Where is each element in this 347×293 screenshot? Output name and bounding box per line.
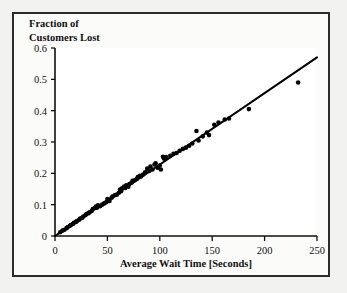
y-tick-label: 0.2 [34,168,47,179]
scatter-plot: Fraction of Customers Lost 00.10.20.30.4… [14,14,328,275]
x-tick-label: 100 [152,245,168,256]
x-tick-label: 150 [204,245,220,256]
data-point [222,117,227,122]
x-tick-label: 250 [309,245,325,256]
data-point [190,141,195,146]
y-tick-label: 0.5 [34,74,47,85]
y-tick-label: 0.1 [34,200,47,211]
data-point [200,134,205,139]
data-point [159,167,164,172]
x-tick-label: 50 [102,245,113,256]
data-point [227,116,232,121]
data-point [296,80,301,85]
data-point [153,161,158,166]
chart-figure: Fraction of Customers Lost 00.10.20.30.4… [0,0,347,293]
y-axis-title-line2: Customers Lost [29,32,100,43]
data-point [158,163,163,168]
data-point [212,122,217,127]
data-point [194,129,199,134]
data-point [196,138,201,143]
x-tick-label: 200 [257,245,273,256]
x-tick-label: 0 [52,245,57,256]
y-tick-label: 0.6 [34,43,47,54]
data-point [164,155,169,160]
y-axis-title-line1: Fraction of [29,18,79,29]
data-point [207,133,212,138]
x-axis-title: Average Wait Time [Seconds] [120,258,252,269]
y-tick-label: 0.3 [34,137,47,148]
y-tick-label: 0.4 [34,106,48,117]
chart-frame: Fraction of Customers Lost 00.10.20.30.4… [12,12,330,277]
y-tick-label: 0 [42,231,47,242]
data-point [247,107,252,112]
y-axis-tick-labels: 00.10.20.30.40.50.6 [34,43,48,242]
data-point [216,120,221,125]
data-point [150,167,155,172]
x-axis-tick-labels: 050100150200250 [52,245,325,256]
